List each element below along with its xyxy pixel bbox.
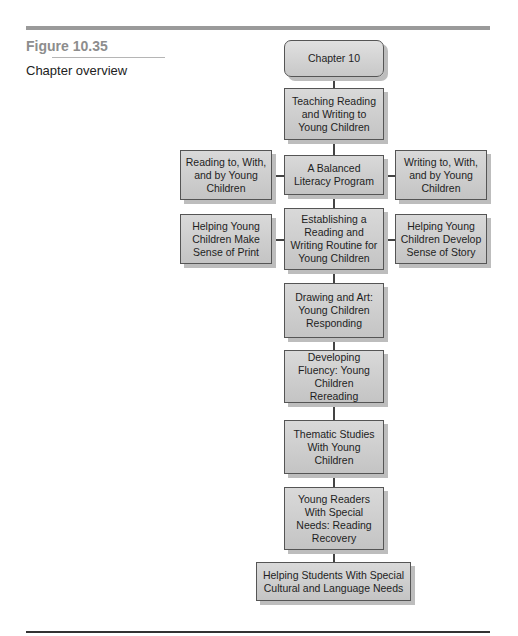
- figure-label-rule: [52, 57, 165, 58]
- connector: [272, 175, 284, 177]
- node-reading-writing-routine: Establishing a Reading and Writing Routi…: [284, 208, 384, 270]
- connector: [333, 474, 335, 487]
- figure-caption: Chapter overview: [26, 63, 127, 78]
- node-writing-to-with-by: Writing to, With, and by Young Children: [395, 150, 487, 200]
- connector: [333, 140, 335, 155]
- top-rule: [26, 26, 490, 30]
- connector: [333, 338, 335, 350]
- connector: [272, 239, 284, 241]
- node-reading-recovery: Young Readers With Special Needs: Readin…: [284, 487, 384, 550]
- figure-label: Figure 10.35: [26, 38, 108, 54]
- node-reading-to-with-by: Reading to, With, and by Young Children: [180, 150, 272, 200]
- node-teaching-reading-writing: Teaching Reading and Writing to Young Ch…: [284, 88, 384, 140]
- connector: [333, 195, 335, 208]
- node-cultural-language-needs: Helping Students With Special Cultural a…: [256, 562, 411, 601]
- node-balanced-literacy: A Balanced Literacy Program: [284, 155, 384, 195]
- connector: [384, 175, 395, 177]
- connector: [333, 270, 335, 283]
- connector: [333, 403, 335, 420]
- connector: [333, 550, 335, 562]
- node-developing-fluency: Developing Fluency: Young Children Rerea…: [284, 350, 384, 403]
- connector: [384, 239, 395, 241]
- node-chapter-10: Chapter 10: [284, 40, 384, 77]
- node-sense-of-story: Helping Young Children Develop Sense of …: [395, 214, 487, 264]
- node-drawing-and-art: Drawing and Art: Young Children Respondi…: [284, 283, 384, 338]
- bottom-rule: [26, 631, 490, 633]
- node-thematic-studies: Thematic Studies With Young Children: [284, 420, 384, 474]
- connector: [333, 77, 335, 88]
- node-sense-of-print: Helping Young Children Make Sense of Pri…: [180, 214, 272, 264]
